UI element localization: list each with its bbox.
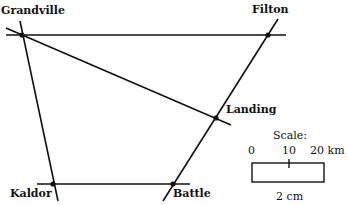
scale-bar <box>252 163 324 182</box>
scale-label-20km: 20 km <box>310 145 345 156</box>
town-dot-filton <box>265 32 270 37</box>
town-dot-landing <box>213 115 218 120</box>
label-filton: Filton <box>252 4 289 15</box>
label-kaldor: Kaldor <box>10 188 52 199</box>
scale-length-label: 2 cm <box>276 191 303 202</box>
road-map <box>0 0 348 205</box>
town-dot-grandville <box>19 32 24 37</box>
label-landing: Landing <box>226 104 276 115</box>
road-grandville-landing <box>6 28 231 125</box>
scale-title: Scale: <box>273 130 307 141</box>
scale-label-0: 0 <box>248 145 255 156</box>
label-grandville: Grandville <box>1 5 65 16</box>
town-dot-kaldor <box>50 181 55 186</box>
label-battle: Battle <box>173 188 211 199</box>
scale-label-10: 10 <box>282 145 296 156</box>
town-dot-battle <box>170 181 175 186</box>
